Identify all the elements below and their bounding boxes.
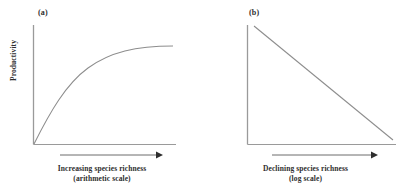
panel-a-x-caption: Increasing species richness (arithmetic … [0,164,204,183]
panel-a-x-caption-line1: Increasing species richness [0,164,204,174]
figure-container: (a) Productivity Increasing species rich… [0,0,407,192]
panel-b-x-direction-arrow [272,152,378,159]
panel-a: (a) Productivity Increasing species rich… [0,0,204,192]
panel-b-tag: (b) [249,8,259,17]
panel-a-productivity-curve [34,46,173,144]
panel-a-x-direction-arrow [60,152,163,159]
panel-b-x-caption-line1: Declining species richness [204,164,407,174]
panel-b: (b) Declining species richness (log scal… [204,0,407,192]
panel-a-tag: (a) [38,8,48,17]
panel-b-x-caption: Declining species richness (log scale) [204,164,407,183]
panel-a-y-axis-label: Productivity [9,25,18,97]
panel-b-x-caption-line2: (log scale) [204,174,407,184]
panel-b-decline-line [254,26,393,140]
panel-a-x-caption-line2: (arithmetic scale) [0,174,204,184]
